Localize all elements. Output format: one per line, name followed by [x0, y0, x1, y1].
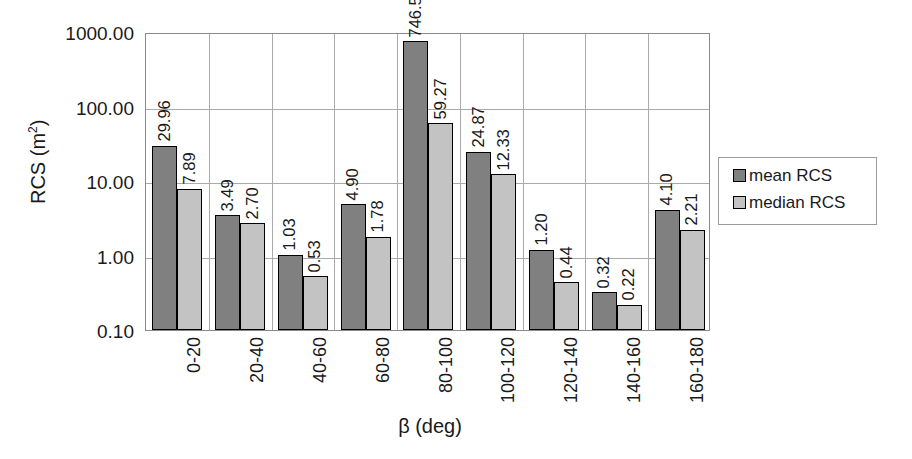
bar-group: 24.8712.33 [460, 34, 523, 330]
bar-group: 746.5259.27 [397, 34, 460, 330]
bar-mean-rcs [592, 292, 617, 330]
bar-group: 1.030.53 [272, 34, 335, 330]
bar-mean-rcs [655, 210, 680, 330]
x-axis-tick-label: 100-120 [499, 337, 517, 403]
bar-median-rcs [366, 237, 391, 330]
bar-median-rcs [428, 123, 453, 330]
x-axis-tick-label: 0-20 [185, 337, 203, 373]
x-axis-tick-label: 120-140 [562, 337, 580, 403]
x-axis-tick-label: 40-60 [311, 337, 329, 383]
bar-mean-rcs [278, 255, 303, 330]
y-axis-tick-label: 1000.00 [65, 24, 134, 43]
bar-value-label: 24.87 [469, 106, 486, 147]
y-axis-title: RCS (m2) [26, 72, 50, 252]
y-axis-tick-labels: 0.101.0010.00100.001000.00 [48, 33, 140, 331]
x-axis-tick-label: 80-100 [437, 337, 455, 393]
bar-value-label: 1.03 [281, 218, 298, 250]
legend-item-label: mean RCS [749, 167, 832, 184]
y-axis-tick-label: 10.00 [86, 173, 134, 192]
bar-median-rcs [303, 276, 328, 330]
x-axis-title: β (deg) [300, 415, 560, 438]
bar-value-label: 4.90 [344, 168, 361, 200]
bar-median-rcs [617, 305, 642, 331]
bar-median-rcs [177, 189, 202, 330]
bar-value-label: 0.22 [620, 268, 637, 300]
bar-value-label: 0.32 [595, 256, 612, 288]
y-axis-tick-label: 100.00 [76, 98, 134, 117]
bar-value-label: 29.96 [155, 100, 172, 141]
bar-value-label: 0.44 [557, 246, 574, 278]
bar-group: 3.492.70 [209, 34, 272, 330]
bar-value-label: 7.89 [180, 153, 197, 185]
x-axis-tick-label: 140-160 [625, 337, 643, 403]
bar-value-label: 2.21 [683, 194, 700, 226]
bar-groups: 29.967.893.492.701.030.534.901.78746.525… [146, 34, 709, 330]
bar-group: 29.967.89 [146, 34, 209, 330]
y-axis-title-text: RCS (m [27, 133, 49, 204]
bar-value-label: 0.53 [306, 240, 323, 272]
bar-group: 0.320.22 [585, 34, 648, 330]
bar-value-label: 59.27 [431, 78, 448, 119]
bar-value-label: 12.33 [494, 129, 511, 170]
y-axis-title-superscript: 2 [26, 126, 40, 133]
bar-value-label: 2.70 [243, 187, 260, 219]
bar-mean-rcs [466, 152, 491, 330]
bar-group: 4.901.78 [334, 34, 397, 330]
bar-mean-rcs [403, 41, 428, 330]
y-axis-tick-label: 0.10 [97, 322, 134, 341]
bar-median-rcs [491, 174, 516, 330]
bar-group: 4.102.21 [648, 34, 711, 330]
bar-median-rcs [240, 223, 265, 330]
legend-swatch-icon [733, 169, 746, 182]
legend-swatch-icon [733, 196, 746, 209]
y-axis-tick-label: 1.00 [97, 247, 134, 266]
y-axis-title-close-paren: ) [27, 120, 49, 127]
chart-legend: mean RCS median RCS [718, 157, 877, 225]
bar-mean-rcs [529, 250, 554, 330]
bar-value-label: 4.10 [658, 174, 675, 206]
bar-mean-rcs [341, 204, 366, 330]
bar-mean-rcs [152, 146, 177, 331]
bar-group: 1.200.44 [523, 34, 586, 330]
legend-item-label: median RCS [749, 194, 845, 211]
bar-value-label: 3.49 [218, 179, 235, 211]
bar-mean-rcs [215, 215, 240, 330]
x-axis-tick-label: 20-40 [248, 337, 266, 383]
x-axis-tick-label: 160-180 [688, 337, 706, 403]
bar-value-label: 746.52 [406, 0, 423, 37]
x-axis-tick-labels: 0-2020-4040-6060-8080-100100-120120-1401… [145, 333, 710, 413]
bar-value-label: 1.20 [532, 213, 549, 245]
x-axis-tick-label: 60-80 [374, 337, 392, 383]
bar-median-rcs [680, 230, 705, 330]
bar-median-rcs [554, 282, 579, 330]
legend-item-median-rcs: median RCS [733, 194, 845, 211]
bar-value-label: 1.78 [369, 201, 386, 233]
plot-area: 29.967.893.492.701.030.534.901.78746.525… [145, 33, 710, 331]
rcs-bar-chart: RCS (m2) 0.101.0010.00100.001000.00 29.9… [0, 0, 912, 459]
legend-item-mean-rcs: mean RCS [733, 167, 832, 184]
